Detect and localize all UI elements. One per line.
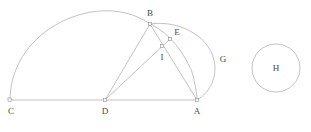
point-label-d: D: [102, 106, 109, 116]
point-label-i: I: [161, 52, 164, 62]
vertex-marker-i: [160, 44, 163, 47]
segment-d-to-b: [105, 24, 150, 100]
vertex-marker-c: [8, 98, 11, 101]
point-label-c: C: [8, 106, 14, 116]
segment-d-to-e-through-i: [105, 39, 170, 100]
vertex-marker-b: [148, 22, 151, 25]
vertex-marker-a: [195, 98, 198, 101]
geometry-figure: A B C D E I G H: [0, 0, 311, 132]
point-label-e: E: [174, 27, 180, 37]
point-label-a: A: [194, 106, 201, 116]
point-label-b: B: [147, 8, 153, 18]
point-label-h: H: [273, 63, 280, 73]
vertex-marker-e: [168, 37, 171, 40]
point-label-g: G: [220, 54, 227, 64]
vertex-marker-d: [103, 98, 106, 101]
arc-semicircle-c-to-b: [10, 11, 150, 100]
geometry-diagram-canvas: A B C D E I G H: [0, 0, 311, 132]
